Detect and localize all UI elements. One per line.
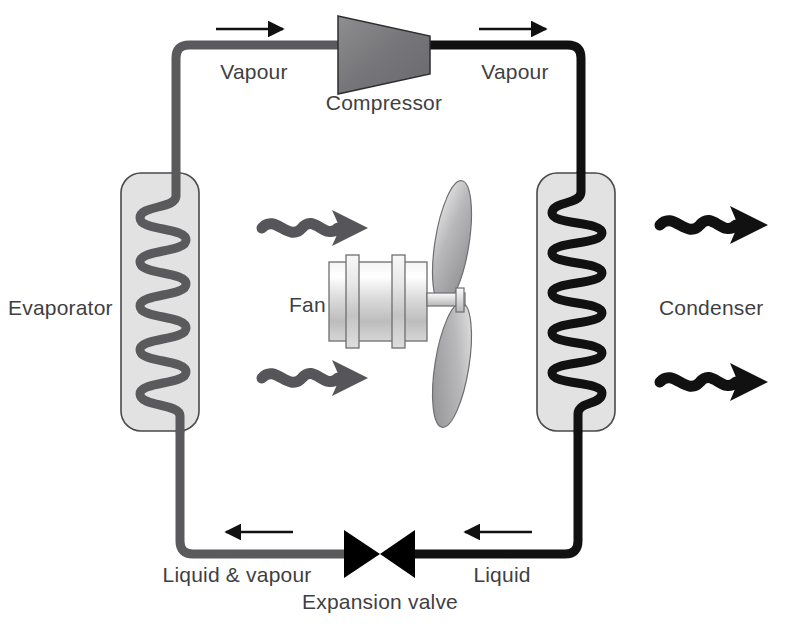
condenser-label: Condenser xyxy=(659,296,764,319)
liquid-line-pipe xyxy=(415,428,578,554)
fan-hub xyxy=(456,288,464,312)
fan-blade-bottom xyxy=(425,300,478,430)
evaporator-label: Evaporator xyxy=(8,296,113,319)
condenser-unit xyxy=(537,173,615,431)
vapour-suction-label: Vapour xyxy=(220,60,287,83)
evaporator-body xyxy=(121,173,199,431)
expansion-valve-left-triangle xyxy=(344,530,380,578)
fan-collar-rear xyxy=(392,255,405,348)
compressor-label: Compressor xyxy=(326,91,442,114)
fan-motor-body xyxy=(329,262,427,341)
refrigeration-cycle-diagram: Evaporator Condenser Compressor Expansio… xyxy=(0,0,797,627)
hot-air-arrow-upper xyxy=(660,206,768,244)
evaporator-unit xyxy=(121,173,199,431)
fan-blade-top xyxy=(425,178,478,308)
liquid-vapour-line-pipe xyxy=(180,425,344,554)
expansion-valve-label: Expansion valve xyxy=(302,590,458,613)
fan-assembly xyxy=(329,178,479,430)
cold-air-arrow-upper xyxy=(262,210,368,246)
hot-air-arrow-lower xyxy=(660,363,768,401)
fan-collar-front xyxy=(346,255,359,348)
liquid-label: Liquid xyxy=(473,563,530,586)
expansion-valve-right-triangle xyxy=(380,530,415,578)
compressor-shape xyxy=(338,16,430,94)
vapour-discharge-label: Vapour xyxy=(481,60,548,83)
compressor-symbol xyxy=(338,16,430,94)
cold-air-arrow-lower xyxy=(262,360,368,396)
diagram-canvas: Evaporator Condenser Compressor Expansio… xyxy=(0,0,797,627)
fan-label: Fan xyxy=(289,293,326,316)
liquid-and-vapour-label: Liquid & vapour xyxy=(163,563,312,586)
expansion-valve-symbol xyxy=(344,530,415,578)
